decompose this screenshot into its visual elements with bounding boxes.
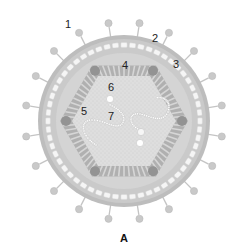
label-6: 6 [108, 82, 114, 93]
label-1: 1 [65, 19, 71, 30]
enzyme-particle [136, 139, 143, 146]
label-3: 3 [173, 59, 179, 70]
label-5: 5 [81, 106, 87, 117]
label-4: 4 [122, 60, 128, 71]
label-2: 2 [152, 33, 158, 44]
enzyme-particle [106, 95, 113, 102]
virion-illustration [0, 0, 245, 248]
label-7: 7 [108, 111, 114, 122]
virus-diagram: 1 2 3 4 5 6 7 A [0, 0, 245, 248]
enzyme-particle [137, 128, 144, 135]
figure-caption: A [120, 233, 128, 244]
